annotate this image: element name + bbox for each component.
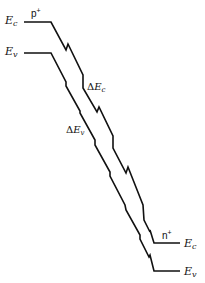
band-diagram: [0, 0, 205, 283]
right-ev-label: Ev: [184, 266, 197, 279]
p-plus-label: p+: [31, 7, 41, 19]
left-ev-label: Ev: [5, 46, 18, 59]
n-plus-label: n+: [162, 229, 172, 241]
conduction-band-line: [24, 22, 180, 243]
delta-ev-label: ΔEv: [66, 125, 85, 137]
delta-ec-label: ΔEc: [87, 82, 105, 94]
right-ec-label: Ec: [184, 238, 197, 251]
left-ec-label: Ec: [5, 15, 18, 28]
